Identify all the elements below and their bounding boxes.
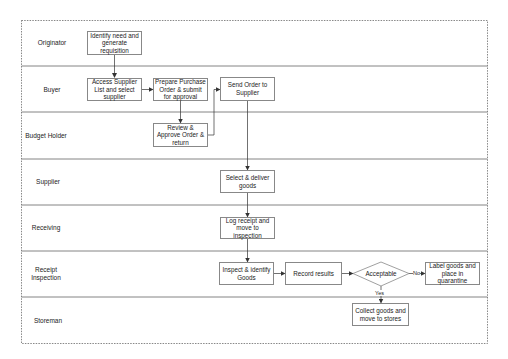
node-select-deliver[interactable]: Select & deliver goods [220, 170, 275, 193]
node-log-receipt[interactable]: Log receipt and move to inspection [220, 217, 275, 239]
node-collect-goods[interactable]: Collect goods and move to stores [352, 303, 409, 326]
lane-label-buyer: Buyer [28, 86, 76, 94]
lane-label-receipt-inspection: Receipt Inspection [24, 266, 68, 282]
node-inspect-identify[interactable]: Inspect & identify Goods [219, 262, 274, 285]
lane-label-supplier: Supplier [24, 178, 72, 186]
lane-label-storeman: Storeman [24, 317, 72, 325]
node-access-supplier-list[interactable]: Access Supplier List and select supplier [87, 78, 142, 101]
lane-label-budget-holder: Budget Holder [22, 132, 70, 140]
node-prepare-purchase-order[interactable]: Prepare Purchase Order & submit for appr… [153, 78, 208, 101]
node-record-results[interactable]: Record results [285, 262, 342, 285]
node-label-quarantine[interactable]: Label goods and place in quarantine [425, 262, 480, 285]
edge-label-yes: Yes [375, 290, 384, 296]
edge-label-no: No [413, 270, 420, 276]
node-review-approve[interactable]: Review & Approve Order & return [153, 123, 208, 147]
node-send-order[interactable]: Send Order to Supplier [220, 77, 275, 101]
node-acceptable[interactable]: Acceptable [355, 270, 407, 277]
lane-label-originator: Originator [28, 39, 76, 47]
node-identify-need[interactable]: Identify need and generate requisition [87, 31, 142, 55]
lane-label-receiving: Receiving [22, 224, 70, 232]
swimlane-diagram: Originator Buyer Budget Holder Supplier … [0, 0, 508, 359]
